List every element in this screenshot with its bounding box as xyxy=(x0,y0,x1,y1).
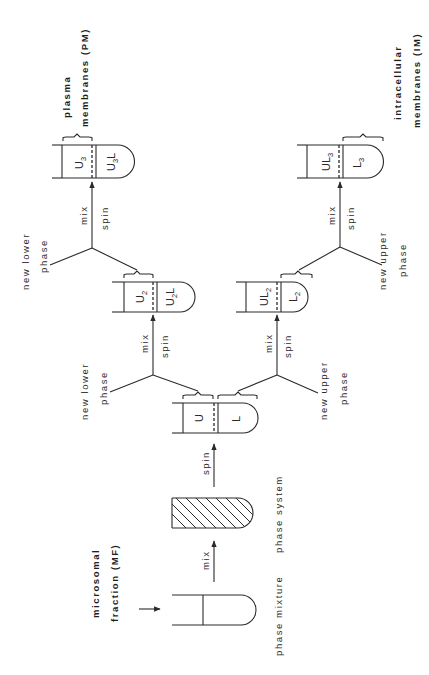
tube-upper-3 xyxy=(52,145,135,178)
added-phase-lower-2-line1: new upper xyxy=(377,231,388,290)
tube-label-U: U xyxy=(193,414,205,422)
tube-label-L2: L2 xyxy=(287,292,302,302)
step-upper-mix: mix xyxy=(139,333,150,353)
tube-label-L3: L3 xyxy=(351,158,366,168)
brace-U xyxy=(183,392,213,399)
step-spin-1: spin xyxy=(200,451,211,475)
tube-label-U3: U3 xyxy=(73,157,88,169)
brace-L3 xyxy=(343,134,383,141)
tube-phase-system xyxy=(152,494,270,532)
output-intracellular-line1: intracellular xyxy=(392,45,403,120)
caption-phase-mixture: phase mixture xyxy=(273,576,284,656)
step-upper-spin-2: spin xyxy=(99,206,110,230)
step-lower-spin-2: spin xyxy=(345,206,356,230)
brace-U2 xyxy=(124,271,153,278)
caption-phase-system: phase system xyxy=(273,475,284,553)
output-intracellular-line2: membranes (IM) xyxy=(411,33,422,128)
tube-lower-3 xyxy=(297,145,384,178)
step-mix-1: mix xyxy=(200,550,211,570)
tube-phase-mixture xyxy=(172,595,256,625)
tube-label-U2: U2 xyxy=(134,291,149,303)
tube-label-UL3: UL3 xyxy=(320,153,335,171)
input-label-line2: fraction (MF) xyxy=(109,544,120,622)
tube-label-L: L xyxy=(230,416,242,422)
added-phase-lower-1-line2: phase xyxy=(338,371,349,405)
added-phase-upper-2-line2: phase xyxy=(38,239,49,273)
tube-label-UL2: UL2 xyxy=(258,288,273,306)
output-plasma-line2: membranes (PM) xyxy=(79,28,90,127)
step-lower-mix-2: mix xyxy=(326,205,337,225)
added-phase-upper-1-line2: phase xyxy=(98,371,109,405)
step-lower-mix: mix xyxy=(263,333,274,353)
tube-upper-2 xyxy=(112,282,195,312)
tube-first-partition xyxy=(172,403,258,433)
added-phase-upper-1-line1: new lower xyxy=(79,363,90,420)
tube-label-U2L: U2L xyxy=(164,288,179,306)
brace-U3 xyxy=(63,134,92,141)
added-phase-upper-2-line1: new lower xyxy=(20,233,31,290)
step-lower-spin: spin xyxy=(282,334,293,358)
brace-L xyxy=(218,392,257,399)
tube-label-U3L: U3L xyxy=(105,153,120,171)
input-label-line1: microsomal xyxy=(90,549,101,618)
partition-flow-diagram: microsomal fraction (MF) phase mixture m… xyxy=(0,0,429,675)
step-upper-mix-2: mix xyxy=(78,205,89,225)
output-plasma-line1: plasma xyxy=(61,76,72,118)
step-upper-spin: spin xyxy=(159,334,170,358)
brace-L2 xyxy=(281,271,312,278)
added-phase-lower-2-line2: phase xyxy=(397,243,408,277)
added-phase-lower-1-line1: new upper xyxy=(318,361,329,420)
